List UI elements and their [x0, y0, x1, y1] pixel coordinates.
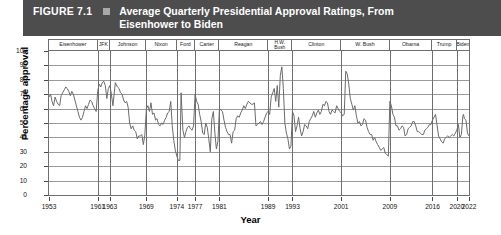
y-tick-label: 70 [0, 91, 27, 98]
approval-line-series [49, 51, 469, 195]
president-cell: Nixon [146, 40, 176, 50]
x-tick-mark [292, 197, 293, 201]
x-tick-label: 1969 [139, 203, 154, 210]
x-tick-label: 1989 [261, 203, 276, 210]
y-tick-label: 80 [0, 77, 27, 84]
y-tick-label: 0 [0, 192, 27, 199]
figure-title-bar: FIGURE 7.1 Average Quarterly Presidentia… [23, 0, 501, 36]
y-tick-label: 40 [0, 134, 27, 141]
president-cell: JFK [98, 40, 110, 50]
y-tick-label: 50 [0, 120, 27, 127]
figure-number: FIGURE 7.1 [33, 5, 92, 18]
y-tick-label: 100 [0, 48, 27, 55]
president-cell: W. Bush [341, 40, 390, 50]
president-cell: Obama [390, 40, 433, 50]
x-tick-label: 1977 [188, 203, 203, 210]
x-tick-mark [177, 197, 178, 201]
x-tick-mark [469, 197, 470, 201]
x-tick-label: 2022 [462, 203, 477, 210]
x-tick-mark [457, 197, 458, 201]
x-tick-label: 1981 [212, 203, 227, 210]
figure-title: Average Quarterly Presidential Approval … [119, 5, 419, 31]
x-tick-mark [432, 197, 433, 201]
x-tick-mark [98, 197, 99, 201]
y-tick-label: 10 [0, 178, 27, 185]
y-tick-label: 30 [0, 149, 27, 156]
x-tick-label: 1993 [285, 203, 300, 210]
president-cell: Reagan [219, 40, 268, 50]
x-tick-mark [110, 197, 111, 201]
x-tick-label: 1974 [169, 203, 184, 210]
y-tick-label: 60 [0, 106, 27, 113]
president-band: EisenhowerJFKJohnsonNixonFordCarterReaga… [48, 39, 470, 50]
president-cell: Biden [457, 40, 469, 50]
president-cell: Ford [177, 40, 195, 50]
president-cell: Carter [195, 40, 219, 50]
approval-line [49, 67, 469, 161]
president-cell: Clinton [292, 40, 341, 50]
x-tick-mark [268, 197, 269, 201]
president-cell: H.W. Bush [268, 40, 292, 50]
x-tick-mark [341, 197, 342, 201]
square-bullet-icon [103, 8, 110, 15]
plot-area [48, 50, 470, 196]
y-tick-label: 20 [0, 163, 27, 170]
x-tick-label: 1963 [103, 203, 118, 210]
x-tick-mark [146, 197, 147, 201]
president-cell: Johnson [110, 40, 147, 50]
x-tick-mark [195, 197, 196, 201]
figure-container: FIGURE 7.1 Average Quarterly Presidentia… [0, 0, 501, 235]
x-tick-label: 2001 [334, 203, 349, 210]
x-axis-title: Year [0, 214, 501, 225]
x-tick-label: 2016 [425, 203, 440, 210]
president-cell: Trump [432, 40, 456, 50]
president-cell: Eisenhower [49, 40, 98, 50]
y-tick-label: 90 [0, 62, 27, 69]
x-tick-mark [390, 197, 391, 201]
x-tick-label: 2009 [383, 203, 398, 210]
x-tick-mark [49, 197, 50, 201]
x-tick-label: 1953 [42, 203, 57, 210]
x-tick-mark [219, 197, 220, 201]
